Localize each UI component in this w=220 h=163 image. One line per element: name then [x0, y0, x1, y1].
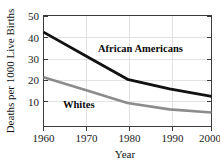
- x-tick-label-1970: 1970: [76, 132, 99, 144]
- y-tick-label-50: 50: [28, 10, 40, 22]
- y-tick-label-30: 30: [28, 53, 40, 65]
- x-tick-label-1980: 1980: [119, 132, 142, 144]
- x-axis-title: Year: [115, 148, 136, 160]
- chart-canvas: 50 40 30 20 10 1960 1970 1980 1990 2000 …: [0, 0, 220, 163]
- x-tick-label-1990: 1990: [162, 132, 185, 144]
- x-tick-label-2000: 2000: [199, 132, 220, 144]
- line-chart: 50 40 30 20 10 1960 1970 1980 1990 2000 …: [0, 0, 220, 163]
- y-tick-label-20: 20: [28, 74, 40, 86]
- series-label-african-americans: African Americans: [98, 43, 183, 54]
- x-tick-label-1960: 1960: [33, 132, 56, 144]
- y-axis-title: Deaths per 1000 Live Births: [4, 9, 16, 134]
- y-tick-label-40: 40: [28, 32, 40, 44]
- series-label-whites: Whites: [63, 99, 95, 110]
- y-tick-label-10: 10: [28, 96, 40, 108]
